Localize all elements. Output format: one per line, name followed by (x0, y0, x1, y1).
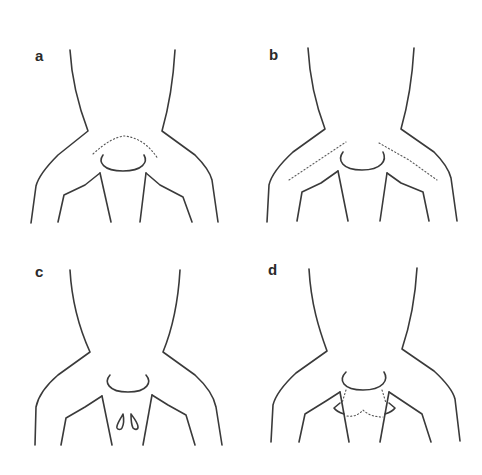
panel-a: a (0, 0, 241, 237)
panel-d: d (241, 237, 482, 474)
torso-outline-icon (241, 0, 482, 237)
panel-b: b (241, 0, 482, 237)
torso-outline-icon (0, 0, 241, 237)
torso-outline-icon (241, 237, 482, 475)
torso-outline-icon (0, 237, 238, 475)
panel-c: c (0, 237, 241, 474)
